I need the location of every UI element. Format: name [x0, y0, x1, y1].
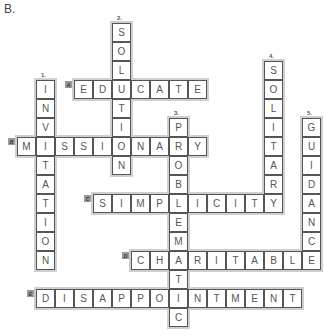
crossword-cell[interactable]: T: [264, 137, 283, 156]
crossword-cell[interactable]: O: [112, 137, 131, 156]
crossword-cell[interactable]: L: [112, 61, 131, 80]
crossword-grid: EDUCATEAMISSIONARYBSIMPLICITYCCHARITABLE…: [0, 0, 324, 336]
crossword-cell[interactable]: T: [283, 289, 302, 308]
clue-label-across: B: [8, 138, 15, 145]
crossword-cell[interactable]: D: [36, 289, 55, 308]
crossword-cell[interactable]: T: [226, 251, 245, 270]
crossword-cell[interactable]: S: [93, 194, 112, 213]
crossword-cell[interactable]: N: [302, 213, 321, 232]
crossword-cell[interactable]: T: [207, 289, 226, 308]
crossword-cell[interactable]: C: [207, 194, 226, 213]
crossword-cell[interactable]: M: [131, 194, 150, 213]
crossword-cell[interactable]: N: [264, 289, 283, 308]
crossword-cell[interactable]: M: [169, 232, 188, 251]
crossword-cell[interactable]: E: [302, 251, 321, 270]
crossword-cell[interactable]: P: [131, 289, 150, 308]
crossword-cell[interactable]: E: [188, 80, 207, 99]
clue-number-down: 5.: [307, 110, 312, 116]
clue-number-down: 3.: [174, 110, 179, 116]
crossword-cell[interactable]: T: [245, 194, 264, 213]
crossword-cell[interactable]: I: [169, 289, 188, 308]
crossword-cell[interactable]: E: [169, 213, 188, 232]
crossword-cell[interactable]: I: [93, 137, 112, 156]
crossword-cell[interactable]: T: [169, 80, 188, 99]
clue-number-down: 2.: [117, 15, 122, 21]
crossword-cell[interactable]: A: [36, 175, 55, 194]
crossword-cell[interactable]: O: [112, 42, 131, 61]
crossword-cell[interactable]: I: [264, 118, 283, 137]
crossword-cell[interactable]: I: [188, 194, 207, 213]
clue-label-across: E: [27, 290, 34, 297]
clue-label-across: D: [122, 252, 129, 259]
crossword-cell[interactable]: A: [150, 80, 169, 99]
crossword-cell[interactable]: S: [74, 137, 93, 156]
crossword-cell[interactable]: O: [36, 232, 55, 251]
crossword-cell[interactable]: Y: [264, 194, 283, 213]
crossword-cell[interactable]: S: [74, 289, 93, 308]
crossword-cell[interactable]: C: [302, 232, 321, 251]
crossword-cell[interactable]: A: [302, 194, 321, 213]
crossword-cell[interactable]: L: [283, 251, 302, 270]
crossword-cell[interactable]: D: [302, 175, 321, 194]
crossword-cell[interactable]: P: [112, 289, 131, 308]
crossword-cell[interactable]: A: [245, 251, 264, 270]
crossword-cell[interactable]: I: [112, 118, 131, 137]
crossword-cell[interactable]: O: [264, 80, 283, 99]
crossword-cell[interactable]: L: [169, 194, 188, 213]
crossword-cell[interactable]: C: [169, 308, 188, 327]
crossword-cell[interactable]: V: [36, 118, 55, 137]
crossword-cell[interactable]: N: [36, 251, 55, 270]
crossword-cell[interactable]: N: [188, 289, 207, 308]
crossword-cell[interactable]: U: [112, 80, 131, 99]
crossword-cell[interactable]: Y: [188, 137, 207, 156]
crossword-cell[interactable]: O: [169, 156, 188, 175]
crossword-cell[interactable]: H: [150, 251, 169, 270]
crossword-cell[interactable]: T: [36, 156, 55, 175]
crossword-cell[interactable]: I: [302, 156, 321, 175]
crossword-cell[interactable]: B: [264, 251, 283, 270]
crossword-cell[interactable]: A: [169, 251, 188, 270]
crossword-cell[interactable]: R: [188, 251, 207, 270]
crossword-cell[interactable]: B: [169, 175, 188, 194]
clue-number-down: 4.: [269, 53, 274, 59]
crossword-cell[interactable]: D: [93, 80, 112, 99]
crossword-cell[interactable]: T: [169, 270, 188, 289]
crossword-cell[interactable]: E: [74, 80, 93, 99]
crossword-cell[interactable]: N: [36, 99, 55, 118]
clue-label-across: C: [84, 195, 91, 202]
clue-label-across: A: [65, 81, 72, 88]
crossword-cell[interactable]: I: [207, 251, 226, 270]
crossword-cell[interactable]: M: [17, 137, 36, 156]
crossword-cell[interactable]: N: [112, 156, 131, 175]
crossword-cell[interactable]: E: [245, 289, 264, 308]
crossword-cell[interactable]: M: [226, 289, 245, 308]
crossword-cell[interactable]: N: [131, 137, 150, 156]
crossword-cell[interactable]: T: [36, 194, 55, 213]
crossword-cell[interactable]: A: [93, 289, 112, 308]
crossword-cell[interactable]: S: [264, 61, 283, 80]
crossword-cell[interactable]: C: [131, 80, 150, 99]
crossword-cell[interactable]: C: [131, 251, 150, 270]
crossword-cell[interactable]: I: [36, 80, 55, 99]
clue-number-down: 1.: [41, 72, 46, 78]
crossword-cell[interactable]: I: [112, 194, 131, 213]
crossword-cell[interactable]: I: [226, 194, 245, 213]
crossword-cell[interactable]: S: [55, 137, 74, 156]
crossword-cell[interactable]: A: [264, 156, 283, 175]
crossword-cell[interactable]: I: [36, 137, 55, 156]
crossword-cell[interactable]: U: [302, 137, 321, 156]
crossword-cell[interactable]: S: [112, 23, 131, 42]
crossword-cell[interactable]: A: [150, 137, 169, 156]
crossword-cell[interactable]: G: [302, 118, 321, 137]
crossword-cell[interactable]: I: [55, 289, 74, 308]
crossword-cell[interactable]: O: [150, 289, 169, 308]
crossword-cell[interactable]: I: [36, 213, 55, 232]
crossword-cell[interactable]: L: [264, 99, 283, 118]
crossword-cell[interactable]: R: [169, 137, 188, 156]
crossword-cell[interactable]: P: [169, 118, 188, 137]
crossword-cell[interactable]: P: [150, 194, 169, 213]
crossword-cell[interactable]: R: [264, 175, 283, 194]
crossword-cell[interactable]: T: [112, 99, 131, 118]
